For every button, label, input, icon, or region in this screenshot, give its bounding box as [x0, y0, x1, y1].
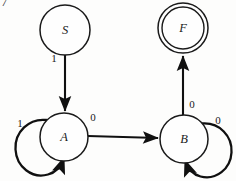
fsa-figure: 7 1 0 0 1	[0, 0, 236, 181]
transition-B-to-F: 0	[183, 56, 195, 115]
transition-B-to-F-label: 0	[189, 98, 195, 110]
state-node-S[interactable]: S	[40, 5, 90, 55]
transition-A-to-B-label: 0	[90, 111, 96, 123]
transition-B-self-loop-label: 0	[215, 114, 221, 126]
state-node-A[interactable]: A	[40, 113, 88, 161]
state-node-B[interactable]: B	[160, 115, 208, 163]
state-A-label: A	[59, 130, 68, 144]
transition-A-to-B-line	[88, 136, 158, 138]
transition-A-to-B: 0	[88, 111, 158, 138]
fsa-diagram-canvas: 1 0 0 1 0 S F	[0, 0, 236, 181]
transition-S-to-A: 1	[51, 52, 65, 111]
transition-A-self-loop-label: 1	[17, 117, 23, 129]
state-F-label: F	[178, 21, 187, 35]
state-B-label: B	[180, 132, 188, 146]
state-node-F[interactable]: F	[158, 3, 208, 53]
state-S-label: S	[62, 23, 69, 37]
